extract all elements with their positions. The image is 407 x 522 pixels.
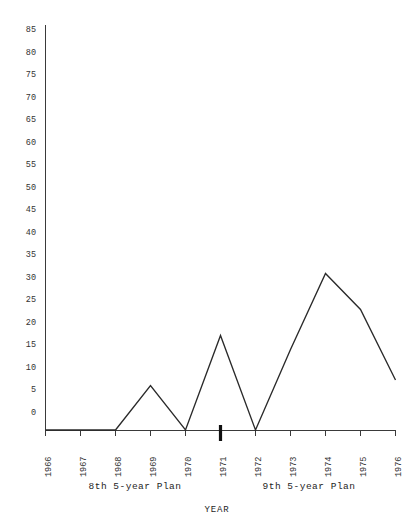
x-tick-1969: 1969 — [149, 457, 159, 477]
y-tick-70: 70 — [26, 93, 36, 103]
y-tick-5: 5 — [31, 385, 36, 395]
x-tick-1966: 1966 — [44, 457, 54, 477]
x-tick-1968: 1968 — [114, 457, 124, 477]
plan-annotations: 8th 5-year Plan 9th 5-year Plan — [88, 481, 355, 492]
annotation-8th-plan: 8th 5-year Plan — [88, 481, 181, 492]
y-tick-10: 10 — [26, 363, 36, 373]
y-tick-65: 65 — [26, 115, 36, 125]
line-chart: 85 80 75 70 65 60 55 50 45 40 35 30 25 2… — [0, 0, 407, 522]
x-axis-title: YEAR — [205, 505, 230, 515]
data-series-group — [46, 274, 396, 431]
x-tick-1971: 1971 — [219, 457, 229, 477]
x-axis-tick-marks — [46, 425, 396, 441]
x-tick-1972: 1972 — [254, 457, 264, 477]
y-tick-55: 55 — [26, 160, 36, 170]
x-tick-1975: 1975 — [359, 457, 369, 477]
y-tick-15: 15 — [26, 340, 36, 350]
y-tick-30: 30 — [26, 273, 36, 283]
y-tick-20: 20 — [26, 318, 36, 328]
x-tick-1976: 1976 — [394, 457, 404, 477]
y-axis-tick-labels: 85 80 75 70 65 60 55 50 45 40 35 30 25 2… — [26, 25, 36, 418]
y-tick-60: 60 — [26, 138, 36, 148]
y-tick-50: 50 — [26, 183, 36, 193]
x-tick-1974: 1974 — [324, 457, 334, 477]
x-tick-1970: 1970 — [184, 457, 194, 477]
y-tick-25: 25 — [26, 295, 36, 305]
axes — [46, 25, 397, 431]
y-tick-85: 85 — [26, 25, 36, 35]
series-line-path — [46, 274, 396, 431]
y-tick-35: 35 — [26, 250, 36, 260]
y-tick-75: 75 — [26, 70, 36, 80]
y-tick-0: 0 — [31, 408, 36, 418]
x-tick-1967: 1967 — [79, 457, 89, 477]
y-tick-45: 45 — [26, 205, 36, 215]
chart-canvas: 85 80 75 70 65 60 55 50 45 40 35 30 25 2… — [0, 0, 407, 522]
y-tick-40: 40 — [26, 228, 36, 238]
annotation-9th-plan: 9th 5-year Plan — [262, 481, 355, 492]
x-axis-tick-labels: 1966 1967 1968 1969 1970 1971 1972 1973 … — [44, 457, 404, 477]
y-tick-80: 80 — [26, 48, 36, 58]
x-tick-1973: 1973 — [289, 457, 299, 477]
